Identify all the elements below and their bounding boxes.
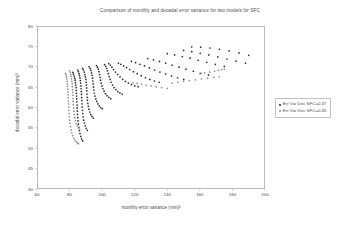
- data-point: [86, 84, 88, 86]
- data-point: [99, 74, 101, 76]
- data-point: [81, 138, 83, 140]
- data-point: [87, 99, 89, 101]
- data-point: [72, 92, 74, 94]
- data-point: [171, 82, 173, 84]
- data-point: [177, 81, 179, 83]
- data-point: [70, 129, 72, 131]
- data-point: [214, 63, 216, 65]
- data-point: [106, 68, 108, 70]
- data-point: [65, 74, 67, 76]
- data-point: [92, 80, 94, 82]
- data-point: [82, 113, 84, 115]
- data-point: [166, 87, 168, 89]
- data-point: [92, 83, 94, 85]
- data-point: [81, 103, 83, 105]
- data-point: [165, 73, 167, 75]
- data-point: [113, 69, 115, 71]
- data-point: [77, 117, 79, 119]
- data-point: [81, 100, 83, 102]
- data-point: [72, 101, 74, 103]
- data-point: [93, 92, 95, 94]
- data-point: [92, 77, 94, 79]
- data-point: [67, 83, 69, 85]
- data-point: [149, 79, 151, 81]
- data-point: [69, 70, 71, 72]
- legend-marker-icon: [279, 104, 281, 106]
- data-point: [100, 107, 102, 109]
- data-point: [80, 136, 82, 138]
- data-point: [154, 69, 156, 71]
- x-tick-label: 200: [256, 192, 274, 197]
- data-point: [181, 56, 183, 58]
- data-point: [75, 123, 77, 125]
- data-point: [91, 74, 93, 76]
- data-point: [82, 116, 84, 118]
- data-point: [75, 90, 77, 92]
- data-point: [217, 56, 219, 58]
- data-point: [136, 73, 138, 75]
- data-point: [118, 62, 120, 64]
- data-point: [223, 68, 225, 70]
- data-point: [78, 123, 80, 125]
- y-tick-label: 65: [19, 85, 33, 90]
- data-point: [208, 54, 210, 56]
- data-point: [71, 132, 73, 134]
- data-point: [79, 133, 81, 135]
- data-point: [108, 76, 110, 78]
- data-point: [171, 64, 173, 66]
- data-point: [86, 96, 88, 98]
- legend-item[interactable]: Err Var Dec SFC=0.45: [279, 108, 327, 114]
- data-point: [208, 74, 210, 76]
- data-point: [67, 94, 69, 96]
- data-point: [75, 141, 77, 143]
- data-point: [85, 76, 87, 78]
- data-point: [191, 46, 193, 48]
- data-point: [166, 53, 168, 55]
- data-point: [72, 89, 74, 91]
- data-point: [245, 62, 247, 64]
- data-point: [108, 63, 110, 65]
- data-point: [104, 64, 106, 66]
- y-tick-label: 50: [19, 146, 33, 151]
- data-point: [199, 73, 201, 75]
- data-point: [209, 71, 211, 73]
- data-point: [79, 80, 81, 82]
- data-point: [67, 88, 69, 90]
- data-point: [91, 116, 93, 118]
- data-point: [183, 50, 185, 52]
- data-point: [76, 98, 78, 100]
- data-point: [65, 72, 67, 74]
- data-point: [221, 69, 223, 71]
- y-tick-label: 75: [19, 44, 33, 49]
- data-point: [105, 93, 107, 95]
- data-point: [79, 129, 81, 131]
- data-point: [126, 67, 128, 69]
- data-point: [92, 117, 94, 119]
- data-point: [108, 96, 110, 98]
- data-point: [209, 47, 211, 49]
- data-point: [174, 54, 176, 56]
- data-point: [107, 73, 109, 75]
- data-point: [137, 86, 139, 88]
- data-point: [153, 59, 155, 61]
- data-point: [66, 76, 68, 78]
- data-point: [75, 82, 77, 84]
- data-point: [72, 72, 74, 74]
- data-point: [78, 71, 80, 73]
- data-point: [145, 77, 147, 79]
- x-tick-label: 160: [191, 192, 209, 197]
- data-point: [73, 137, 75, 139]
- data-point: [81, 106, 83, 108]
- data-point: [144, 65, 146, 67]
- data-point: [183, 79, 185, 81]
- data-point: [100, 79, 102, 81]
- data-point: [69, 123, 71, 125]
- data-point: [96, 65, 98, 67]
- data-point: [68, 110, 70, 112]
- data-point: [149, 67, 151, 69]
- data-point: [90, 70, 92, 72]
- data-point: [189, 80, 191, 82]
- data-point: [131, 84, 133, 86]
- data-point: [72, 135, 74, 137]
- x-tick-label: 100: [93, 192, 111, 197]
